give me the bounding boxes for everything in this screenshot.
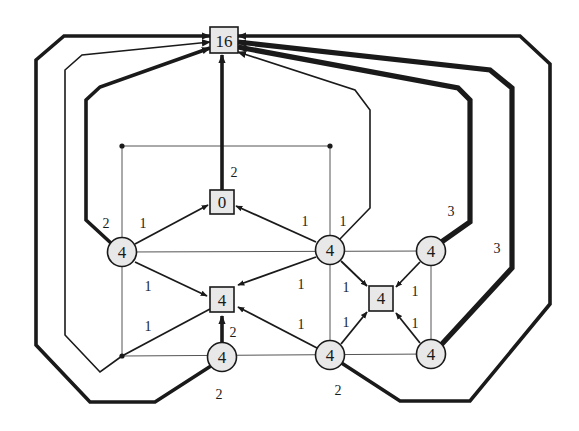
inner-edges [122, 205, 420, 356]
label-cE-to-sqR: 1 [343, 315, 350, 330]
svg-text:16: 16 [216, 32, 233, 51]
flow-network-diagram: 16 0 4 4 4 4 4 4 4 4 2 2 1 1 1 [0, 0, 579, 431]
label-cC-to-sink: 3 [448, 204, 455, 219]
path-cD-to-sink [36, 36, 214, 402]
circle-node-cE: 4 [316, 341, 345, 370]
label-cB-to-sink: 1 [340, 214, 347, 229]
label-cB-to-sqL: 1 [298, 277, 305, 292]
svg-text:4: 4 [326, 241, 335, 260]
label-cC-to-sqR: 1 [412, 284, 419, 299]
sink-node: 16 [210, 27, 238, 53]
svg-text:4: 4 [118, 243, 127, 262]
circle-node-cD: 4 [208, 343, 237, 372]
square-node-sqR: 4 [369, 286, 393, 311]
label-cD-to-sink: 2 [216, 387, 223, 402]
square-node-sq0: 0 [210, 190, 234, 214]
svg-text:4: 4 [427, 345, 436, 364]
svg-text:4: 4 [218, 291, 227, 310]
circle-node-cC: 4 [417, 237, 446, 266]
square-node-sqL: 4 [210, 287, 234, 312]
path-cC-to-sink [238, 47, 470, 243]
path-cE-to-sink [238, 36, 550, 401]
edge-labels: 2 2 1 1 1 3 3 1 1 2 1 1 1 1 1 1 2 2 [103, 165, 501, 402]
circle-node-cF: 4 [417, 340, 446, 369]
label-cF-to-sqR: 1 [412, 316, 419, 331]
svg-text:4: 4 [377, 289, 386, 308]
label-cF-to-sink: 3 [494, 241, 501, 256]
svg-text:4: 4 [427, 242, 436, 261]
label-cB-to-sqR: 1 [343, 280, 350, 295]
svg-text:0: 0 [218, 193, 227, 212]
label-sq0-to-sink: 2 [231, 165, 238, 180]
label-cB-to-sq0: 1 [302, 214, 309, 229]
label-cE-to-sink: 2 [335, 383, 342, 398]
edge-cE-to-sqL [238, 307, 317, 348]
edge-dot-to-sqL [122, 309, 210, 356]
sink-paths [36, 36, 550, 402]
label-cE-to-sqL: 1 [298, 317, 305, 332]
label-cA-to-sqL: 1 [145, 279, 152, 294]
circle-node-cA: 4 [108, 238, 137, 267]
label-cD-to-sqL: 2 [230, 325, 237, 340]
label-cA-to-sink: 2 [103, 216, 110, 231]
label-dot-to-sqL: 1 [145, 319, 152, 334]
svg-text:4: 4 [326, 346, 335, 365]
grid-lines [122, 146, 431, 356]
svg-text:4: 4 [218, 348, 227, 367]
circle-node-cB: 4 [316, 236, 345, 265]
label-cA-to-sq0: 1 [140, 216, 147, 231]
